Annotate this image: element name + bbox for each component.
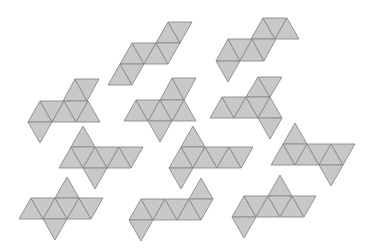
triangle-face [71,126,95,147]
net-10 [129,178,213,241]
triangle-face [216,61,240,82]
net-1 [108,22,192,85]
triangle-face [189,178,213,199]
net-4 [124,78,196,142]
triangle-face [55,177,79,198]
diagram-canvas [0,0,375,252]
triangle-face [319,165,343,186]
triangle-face [83,168,107,189]
net-9 [19,177,103,240]
triangle-face [181,126,205,147]
net-6 [59,126,143,189]
triangle-face [169,168,193,189]
triangle-face [28,122,52,143]
triangle-face [232,217,256,238]
net-3 [28,79,100,143]
triangle-face [129,220,153,241]
triangle-face [268,175,292,196]
net-7 [169,126,253,189]
net-11 [232,175,316,238]
triangle-face [283,123,307,144]
triangle-face [258,118,282,139]
net-2 [216,18,299,82]
net-8 [271,123,355,186]
triangle-face [43,219,67,240]
net-5 [210,77,282,139]
octahedron-nets-diagram [0,0,375,252]
triangle-face [148,121,172,142]
